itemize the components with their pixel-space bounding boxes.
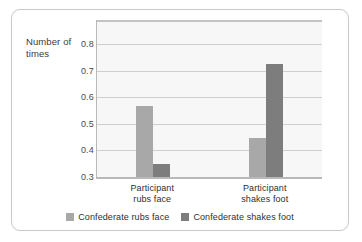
y-axis-tick-label: 0.3 [81, 172, 94, 182]
category-label-line: rubs face [102, 194, 202, 205]
x-axis-category-label: Participantshakes foot [215, 183, 315, 205]
y-axis-tick-label: 0.4 [81, 145, 94, 155]
x-axis-category-labels: Participantrubs faceParticipantshakes fo… [96, 183, 322, 209]
x-axis-category-label: Participantrubs face [102, 183, 202, 205]
y-axis-tick-label: 0.5 [81, 119, 94, 129]
bar [249, 138, 266, 177]
plot-area [96, 20, 322, 179]
gridline [97, 97, 322, 98]
legend-swatch-confederate-rubs-face [66, 213, 74, 221]
y-axis-tick-label: 0.7 [81, 66, 94, 76]
category-label-line: shakes foot [215, 194, 315, 205]
bar [266, 64, 283, 177]
gridline [97, 150, 322, 151]
y-axis-tick-label: 0.6 [81, 92, 94, 102]
category-label-line: Participant [215, 183, 315, 194]
gridline [97, 71, 322, 72]
gridline [97, 44, 322, 45]
legend-label: Confederate rubs face [78, 212, 169, 222]
gridline [97, 124, 322, 125]
legend-entry[interactable]: Confederate shakes foot [181, 212, 293, 222]
bar-chart-figure: Number of times 0.80.70.60.50.40.3 Parti… [0, 0, 362, 242]
y-axis-label: Number of times [26, 36, 74, 59]
x-axis-baseline [97, 177, 322, 179]
category-label-line: Participant [102, 183, 202, 194]
y-axis-tick-label: 0.8 [81, 39, 94, 49]
legend-entry[interactable]: Confederate rubs face [66, 212, 169, 222]
y-axis-tick-labels: 0.80.70.60.50.40.3 [68, 20, 94, 185]
legend-swatch-confederate-shakes-foot [181, 213, 189, 221]
plot-top-rule [97, 20, 322, 22]
bar [136, 106, 153, 177]
legend-label: Confederate shakes foot [193, 212, 293, 222]
chart-legend: Confederate rubs faceConfederate shakes … [11, 209, 349, 225]
bar [153, 164, 170, 177]
